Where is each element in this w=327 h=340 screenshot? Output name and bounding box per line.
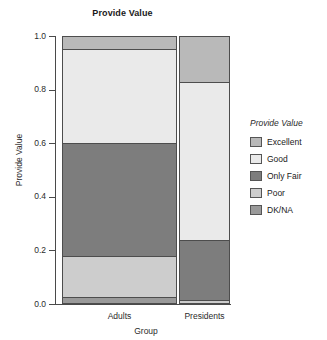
y-tick-label: 0.2 (16, 246, 46, 255)
legend-item-label: Good (267, 154, 288, 164)
legend-item[interactable]: Excellent (250, 133, 303, 150)
legend-swatch-icon (250, 154, 262, 164)
bar-segment[interactable] (62, 297, 177, 304)
y-tick-mark (49, 250, 55, 251)
legend-title: Provide Value (250, 118, 303, 128)
y-tick-label: 0.6 (16, 139, 46, 148)
bar-segment[interactable] (62, 256, 177, 298)
y-tick-label: 0.0 (16, 300, 46, 309)
legend-swatch-icon (250, 137, 262, 147)
y-tick-mark (49, 197, 55, 198)
bar-column-presidents (179, 36, 230, 304)
bar-segment[interactable] (179, 240, 230, 300)
y-tick-label: 0.4 (16, 192, 46, 201)
y-tick-mark (49, 143, 55, 144)
y-tick-mark (49, 36, 55, 37)
y-axis-line (55, 36, 56, 305)
bar-segment[interactable] (62, 143, 177, 256)
x-tick-label-presidents: Presidents (179, 311, 230, 321)
legend-items: ExcellentGoodOnly FairPoorDK/NA (250, 133, 303, 218)
bar-segment[interactable] (179, 303, 230, 305)
legend-item[interactable]: Only Fair (250, 167, 303, 184)
legend-swatch-icon (250, 171, 262, 181)
legend-item[interactable]: Poor (250, 184, 303, 201)
x-tick-label-adults: Adults (62, 311, 177, 321)
y-tick-mark (49, 90, 55, 91)
y-axis-title: Provide Value (14, 120, 24, 200)
bar-segment[interactable] (62, 36, 177, 49)
plot-area (62, 36, 230, 304)
y-tick-label: 0.8 (16, 85, 46, 94)
legend: Provide Value ExcellentGoodOnly FairPoor… (250, 118, 303, 218)
legend-item-label: DK/NA (267, 205, 293, 215)
legend-swatch-icon (250, 188, 262, 198)
legend-item[interactable]: DK/NA (250, 201, 303, 218)
y-tick-mark (49, 304, 55, 305)
legend-item[interactable]: Good (250, 150, 303, 167)
bar-column-adults (62, 36, 177, 304)
y-tick-label: 1.0 (16, 32, 46, 41)
legend-item-label: Excellent (267, 137, 302, 147)
bar-segment[interactable] (179, 36, 230, 82)
bar-segment[interactable] (62, 49, 177, 143)
chart-title: Provide Value (0, 8, 245, 18)
legend-item-label: Poor (267, 188, 285, 198)
legend-item-label: Only Fair (267, 171, 301, 181)
chart-container: Provide Value Provide Value Group 1.00.8… (0, 0, 327, 340)
x-axis-title: Group (62, 326, 230, 336)
bar-segment[interactable] (179, 82, 230, 240)
legend-swatch-icon (250, 205, 262, 215)
